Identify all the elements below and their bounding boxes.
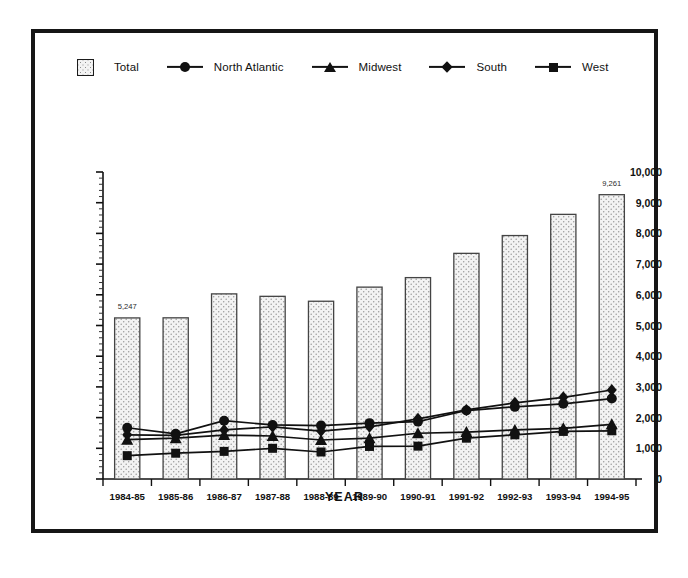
data-point-marker [365,442,374,451]
y-axis-tick-label: 2,000 [606,412,662,424]
chart-figure: TotalNorth AtlanticMidwestSouthWest 01,0… [0,0,688,578]
bar-value-annotation: 9,261 [602,179,621,188]
data-point-marker [123,451,132,460]
legend-marker [549,63,558,72]
legend-marker [324,62,336,72]
data-point-marker [317,447,326,456]
y-axis-tick-label: 0 [606,473,662,485]
data-point-marker [268,444,277,453]
y-axis-tick-label: 5,000 [606,320,662,332]
plot-svg [35,33,662,537]
y-axis-tick-label: 1,000 [606,442,662,454]
bar [454,253,479,479]
data-point-marker [171,449,180,458]
bar [502,236,527,479]
x-axis-title: YEAR [35,490,654,504]
y-axis-tick-label: 3,000 [606,381,662,393]
data-point-marker [559,427,568,436]
y-axis-tick-label: 6,000 [606,289,662,301]
legend-marker [180,62,190,72]
chart-frame-border: TotalNorth AtlanticMidwestSouthWest 01,0… [31,29,658,533]
data-point-marker [462,434,471,443]
y-axis-tick-label: 7,000 [606,258,662,270]
data-point-marker [607,426,616,435]
y-axis-tick-label: 4,000 [606,350,662,362]
plot-area: 01,0002,0003,0004,0005,0006,0007,0008,00… [35,33,662,537]
data-point-marker [510,430,519,439]
y-axis-tick-label: 8,000 [606,227,662,239]
y-axis-tick-label: 9,000 [606,197,662,209]
data-point-marker [413,442,422,451]
bar-value-annotation: 5,247 [118,302,137,311]
bar [551,214,576,479]
y-axis-tick-label: 10,000 [606,166,662,178]
data-point-marker [220,447,229,456]
